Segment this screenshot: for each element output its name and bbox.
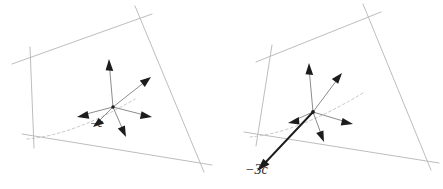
vector-down-right-left — [113, 107, 126, 137]
vector-up-left — [106, 59, 114, 107]
vector-down-right-right — [313, 112, 324, 142]
plane-outline-right — [244, 4, 439, 170]
right-panel — [244, 4, 439, 171]
vector-fan-left — [77, 59, 152, 137]
plane-edge-left-left — [30, 47, 34, 148]
vector-up-right-panel — [306, 63, 314, 112]
vector-down-left-right — [288, 112, 313, 125]
vector-right-left — [113, 107, 152, 119]
vector-scaling-figure: −c −3c — [0, 0, 443, 189]
plane-edge-left-right — [256, 45, 272, 146]
figure-canvas — [0, 0, 443, 189]
label-minus-c: −c — [90, 118, 103, 130]
plane-edge-top-right — [256, 12, 381, 62]
left-panel — [12, 6, 212, 172]
label-minus-3c: −3c — [245, 163, 268, 177]
vector-up-right-left — [113, 77, 151, 107]
dashed-arc-left — [27, 99, 135, 139]
plane-outline-left — [12, 6, 212, 172]
plane-edge-top-left — [12, 14, 152, 64]
vector-fan-right — [257, 63, 353, 171]
vector-origin-left — [111, 105, 114, 108]
plane-edge-right-left — [135, 6, 204, 172]
plane-edge-bottom-left — [22, 134, 212, 165]
vector-up-right-diag-right — [313, 73, 342, 112]
vector-origin-right — [311, 110, 315, 114]
plane-edge-right-right — [363, 4, 431, 170]
vector-right-right — [313, 112, 353, 126]
plane-edge-bottom-right — [244, 132, 439, 163]
